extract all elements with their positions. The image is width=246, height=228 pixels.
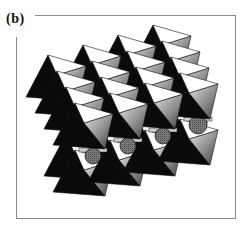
molecule-sphere <box>155 128 171 144</box>
molecule-sphere <box>85 148 101 164</box>
molecule-sphere <box>120 138 136 154</box>
crystal-structure-figure: (b) <box>0 0 246 228</box>
octahedra-structure-diagram <box>0 0 246 228</box>
